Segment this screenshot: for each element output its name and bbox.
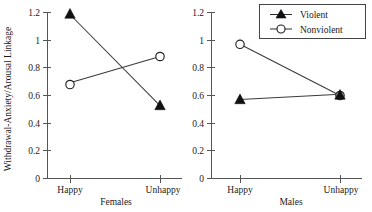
females-violent-marker-happy: [65, 9, 75, 19]
males-ytick-0: 0: [199, 174, 204, 184]
males-ytick-0-4: 0.4: [192, 119, 204, 129]
females-nonviolent-marker-unhappy: [156, 52, 164, 60]
females-xtick-unhappy: Unhappy: [146, 185, 181, 195]
males-ytick-0-8: 0.8: [192, 63, 204, 73]
females-ytick-0-2: 0.2: [28, 146, 40, 156]
legend-item-nonviolent[interactable]: Nonviolent: [270, 25, 343, 35]
males-ytick-0-6: 0.6: [192, 91, 204, 101]
males-ytick-1-2: 1.2: [192, 8, 204, 18]
females-ytick-0-8: 0.8: [28, 63, 40, 73]
males-xtick-unhappy: Unhappy: [324, 185, 359, 195]
chart-svg: Withdrawal-Anxiety/Arousal Linkage 0 0.2…: [0, 0, 372, 212]
females-ytick-0: 0: [35, 174, 40, 184]
males-violent-line: [240, 94, 340, 99]
females-nonviolent-marker-happy: [66, 80, 74, 88]
females-ytick-1-2: 1.2: [28, 8, 40, 18]
panel-females: 0 0.2 0.4 0.6 0.8 1 1.2 Happy Unhappy Fe…: [28, 8, 182, 207]
figure-container: Withdrawal-Anxiety/Arousal Linkage 0 0.2…: [0, 0, 372, 212]
females-ytick-0-6: 0.6: [28, 91, 40, 101]
females-ytick-1: 1: [35, 36, 40, 46]
females-ytick-0-4: 0.4: [28, 119, 40, 129]
males-panel-label: Males: [279, 197, 303, 207]
legend-nonviolent-label: Nonviolent: [300, 25, 343, 35]
males-ytick-0-2: 0.2: [192, 146, 204, 156]
females-panel-label: Females: [100, 197, 132, 207]
males-nonviolent-marker-happy: [236, 40, 244, 48]
males-violent-marker-happy: [235, 94, 245, 104]
females-xtick-happy: Happy: [57, 185, 83, 195]
males-nonviolent-line: [240, 44, 340, 95]
males-ytick-1: 1: [199, 36, 204, 46]
legend: Violent Nonviolent: [260, 5, 366, 39]
legend-nonviolent-marker: [277, 25, 285, 33]
legend-violent-label: Violent: [300, 10, 328, 20]
y-axis-title: Withdrawal-Anxiety/Arousal Linkage: [3, 27, 13, 171]
males-xtick-happy: Happy: [227, 185, 253, 195]
